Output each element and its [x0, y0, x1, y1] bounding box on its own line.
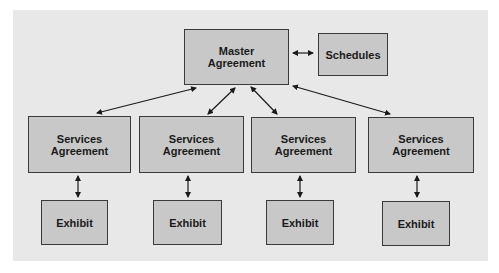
services-label-line1: Services [281, 133, 326, 145]
services-label-line2: Agreement [392, 145, 449, 157]
exhibit-box-2: Exhibit [153, 200, 222, 245]
services-label-line2: Agreement [163, 145, 220, 157]
master-label-line2: Agreement [208, 57, 265, 69]
exhibit-label: Exhibit [169, 217, 206, 229]
exhibit-box-1: Exhibit [41, 200, 108, 245]
services-label-line1: Services [398, 133, 443, 145]
exhibit-box-3: Exhibit [266, 200, 334, 245]
exhibit-label: Exhibit [56, 217, 93, 229]
services-label-line1: Services [57, 133, 102, 145]
schedules-label: Schedules [325, 49, 380, 61]
exhibit-label: Exhibit [398, 218, 435, 230]
master-label-line1: Master [219, 45, 254, 57]
master-agreement-box: MasterAgreement [184, 29, 289, 85]
services-label-line2: Agreement [51, 145, 108, 157]
schedules-box: Schedules [318, 33, 388, 76]
services-agreement-box-4: ServicesAgreement [368, 117, 474, 173]
arrow-master-services-2 [208, 88, 235, 114]
exhibit-box-4: Exhibit [382, 201, 450, 246]
services-agreement-box-2: ServicesAgreement [139, 116, 244, 173]
arrow-master-services-1 [97, 88, 196, 113]
arrow-master-services-3 [251, 87, 277, 114]
exhibit-label: Exhibit [282, 217, 319, 229]
arrow-master-services-4 [293, 86, 390, 114]
services-label-line2: Agreement [275, 145, 332, 157]
services-agreement-box-1: ServicesAgreement [28, 116, 131, 173]
services-label-line1: Services [169, 133, 214, 145]
services-agreement-box-3: ServicesAgreement [251, 117, 356, 173]
